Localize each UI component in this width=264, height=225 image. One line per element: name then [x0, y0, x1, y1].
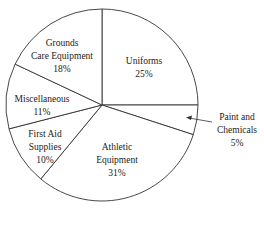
svg-text:Supplies: Supplies: [29, 142, 62, 152]
svg-text:Paint and: Paint and: [219, 112, 255, 122]
svg-text:Care Equipment: Care Equipment: [31, 51, 93, 61]
svg-text:25%: 25%: [135, 69, 153, 79]
svg-text:First Aid: First Aid: [28, 129, 62, 139]
pie-slices: [6, 9, 198, 201]
svg-text:Athletic: Athletic: [102, 142, 133, 152]
pie-chart: Uniforms 25% Grounds Care Equipment 18% …: [0, 0, 264, 225]
svg-text:Uniforms: Uniforms: [126, 56, 163, 66]
svg-text:5%: 5%: [231, 138, 244, 148]
svg-text:Equipment: Equipment: [96, 155, 138, 165]
svg-text:31%: 31%: [108, 168, 126, 178]
label-paint: Paint and Chemicals 5%: [217, 112, 257, 148]
svg-text:Miscellaneous: Miscellaneous: [15, 94, 70, 104]
svg-text:18%: 18%: [53, 64, 71, 74]
svg-text:Grounds: Grounds: [46, 38, 79, 48]
svg-text:10%: 10%: [36, 155, 54, 165]
svg-text:11%: 11%: [33, 107, 50, 117]
svg-text:Chemicals: Chemicals: [217, 125, 257, 135]
